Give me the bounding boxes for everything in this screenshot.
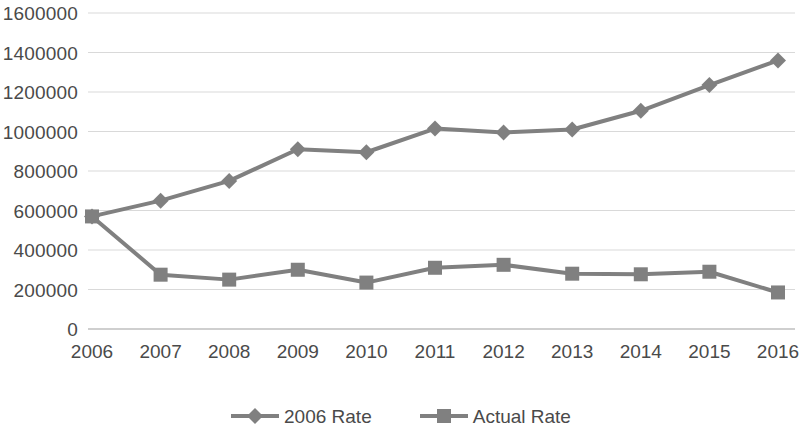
data-point-marker: [290, 141, 306, 157]
series-line: [92, 60, 778, 216]
data-point-marker: [701, 77, 717, 93]
data-point-marker: [85, 209, 99, 223]
series-layer: [84, 52, 786, 299]
data-point-marker: [564, 122, 580, 138]
data-point-marker: [771, 285, 785, 299]
x-axis-tick-label: 2009: [277, 342, 319, 361]
series-line: [92, 216, 778, 292]
data-point-marker: [291, 263, 305, 277]
legend-entry-1[interactable]: 2006 Rate: [229, 405, 372, 427]
x-axis-tick-label: 2007: [139, 342, 181, 361]
data-point-marker: [702, 265, 716, 279]
data-point-marker: [634, 267, 648, 281]
data-point-marker: [153, 193, 169, 209]
data-point-marker: [221, 173, 237, 189]
legend-label: 2006 Rate: [284, 407, 372, 426]
gridlines: [88, 13, 795, 290]
data-point-marker: [565, 267, 579, 281]
diamond-marker-icon: [229, 405, 281, 427]
data-point-marker: [358, 144, 374, 160]
series-2: [85, 209, 785, 299]
x-axis-tick-label: 2006: [71, 342, 113, 361]
data-point-marker: [497, 258, 511, 272]
data-point-marker: [427, 121, 443, 137]
x-axis-tick-label: 2013: [551, 342, 593, 361]
data-point-marker: [359, 276, 373, 290]
series-1: [84, 52, 786, 224]
line-chart: 0200000400000600000800000100000012000001…: [0, 0, 800, 439]
x-axis-tick-label: 2010: [345, 342, 387, 361]
x-axis-tick-label: 2008: [208, 342, 250, 361]
x-axis: 2006200720082009201020112012201320142015…: [0, 336, 800, 370]
data-point-marker: [222, 273, 236, 287]
data-point-marker: [496, 124, 512, 140]
x-axis-tick-label: 2011: [415, 342, 456, 361]
legend-label: Actual Rate: [473, 407, 571, 426]
data-point-marker: [770, 52, 786, 68]
x-axis-tick-label: 2016: [757, 342, 799, 361]
x-axis-tick-label: 2014: [620, 342, 662, 361]
chart-legend: 2006 RateActual Rate: [0, 398, 800, 434]
x-axis-tick-label: 2015: [688, 342, 730, 361]
data-point-marker: [154, 268, 168, 282]
legend-entry-2[interactable]: Actual Rate: [418, 405, 571, 427]
plot-area: [0, 0, 800, 439]
x-axis-tick-label: 2012: [482, 342, 524, 361]
square-marker-icon: [418, 405, 470, 427]
data-point-marker: [428, 261, 442, 275]
data-point-marker: [633, 103, 649, 119]
